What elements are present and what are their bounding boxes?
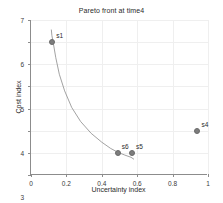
gridline-horizontal xyxy=(31,20,208,21)
gridline-horizontal xyxy=(31,42,208,43)
y-tick-label: 3 xyxy=(20,194,24,201)
x-axis-label: Uncertainty index xyxy=(30,186,207,193)
data-point-s4[interactable] xyxy=(194,128,200,134)
data-point-label-s6: s6 xyxy=(122,143,129,150)
x-tick-mark: 0.8 xyxy=(173,174,174,177)
x-tick-mark: 0.2 xyxy=(66,174,67,177)
x-tick-mark: 0 xyxy=(31,174,32,177)
data-point-s5[interactable] xyxy=(129,150,135,156)
x-tick-mark: 0.6 xyxy=(137,174,138,177)
x-tick-mark: 0.4 xyxy=(102,174,103,177)
gridline-vertical xyxy=(173,20,174,175)
y-tick-label: 6 xyxy=(20,61,24,68)
y-tick-mark: 3 xyxy=(28,109,31,110)
data-point-label-s5: s5 xyxy=(136,143,143,150)
gridline-vertical xyxy=(102,20,103,175)
gridline-vertical xyxy=(66,20,67,175)
gridline-vertical xyxy=(208,20,209,175)
gridline-horizontal xyxy=(31,86,208,87)
chart-figure: Pareto front at time4 01234567 00.20.40.… xyxy=(0,0,223,203)
plot-area: 01234567 00.20.40.60.81 s1s6s5s4 xyxy=(30,20,207,175)
data-point-label-s1: s1 xyxy=(56,32,63,39)
y-tick-mark: 6 xyxy=(28,42,31,43)
y-axis-label: Cost index xyxy=(15,80,22,113)
gridline-horizontal xyxy=(31,109,208,110)
y-tick-mark: 5 xyxy=(28,64,31,65)
gridline-horizontal xyxy=(31,64,208,65)
y-tick-label: 4 xyxy=(20,149,24,156)
y-tick-label: 7 xyxy=(20,17,24,24)
gridline-horizontal xyxy=(31,131,208,132)
data-point-label-s4: s4 xyxy=(201,121,208,128)
data-point-s6[interactable] xyxy=(115,150,121,156)
gridline-vertical xyxy=(137,20,138,175)
x-tick-mark: 1 xyxy=(208,174,209,177)
y-tick-mark: 2 xyxy=(28,131,31,132)
y-tick-mark: 1 xyxy=(28,153,31,154)
chart-title: Pareto front at time4 xyxy=(0,7,223,14)
y-tick-mark: 4 xyxy=(28,86,31,87)
data-point-s1[interactable] xyxy=(49,39,55,45)
y-tick-mark: 7 xyxy=(28,20,31,21)
